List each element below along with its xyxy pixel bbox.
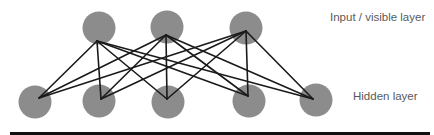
hidden-node-4 [233,85,266,118]
edge-v2-h3 [166,35,167,99]
visible-layer-label: Input / visible layer [330,12,425,24]
horizontal-rule [10,132,430,135]
visible-node-1 [83,12,116,45]
hidden-layer-label: Hidden layer [353,91,418,103]
visible-node-2 [151,11,184,44]
edge-v3-h1 [39,31,246,98]
hidden-node-5 [300,84,333,117]
